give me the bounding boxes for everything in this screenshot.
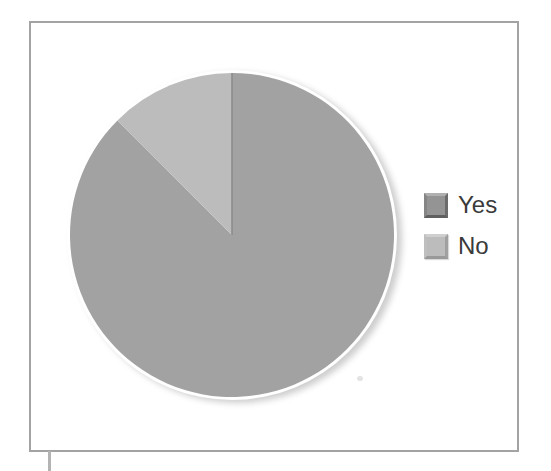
legend-item-yes: Yes <box>424 192 497 218</box>
legend-swatch-no <box>424 234 448 259</box>
legend-label-no: No <box>458 233 489 259</box>
legend-item-no: No <box>424 233 489 259</box>
scan-artifact-line <box>48 451 51 471</box>
legend-swatch-yes <box>424 193 448 218</box>
pie-chart <box>65 68 399 402</box>
legend-label-yes: Yes <box>458 192 497 218</box>
scanned-figure: Yes No <box>0 0 551 471</box>
scan-artifact-speck <box>357 376 363 381</box>
